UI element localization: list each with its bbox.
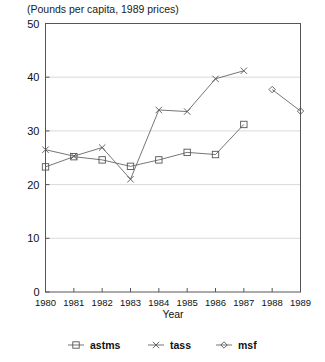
x-axis-ticks: 1980198119821983198419851986198719881989	[35, 288, 311, 308]
x-tick-label: 1982	[92, 297, 113, 308]
data-point-x	[127, 176, 133, 182]
x-axis-title: Year	[162, 308, 184, 320]
x-tick-label: 1988	[262, 297, 283, 308]
x-tick-label: 1984	[148, 297, 169, 308]
series-line-msf	[272, 90, 300, 111]
x-tick-label: 1989	[290, 297, 311, 308]
x-tick-label: 1981	[63, 297, 84, 308]
chart-legend: astmstassmsf	[68, 339, 257, 351]
y-tick-label: 40	[27, 71, 39, 83]
x-tick-label: 1983	[120, 297, 141, 308]
x-tick-label: 1985	[177, 297, 198, 308]
x-tick-label: 1986	[205, 297, 226, 308]
data-point-x	[212, 76, 218, 82]
legend-item-astms[interactable]: astms	[68, 339, 121, 351]
data-series-group	[42, 68, 303, 183]
legend-label: astms	[90, 339, 121, 351]
data-point-x	[241, 68, 247, 74]
series-msf	[269, 86, 304, 114]
legend-label: tass	[170, 339, 191, 351]
chart-figure: (Pounds per capita, 1989 prices) 0102030…	[0, 0, 325, 362]
y-tick-label: 10	[27, 232, 39, 244]
legend-item-tass[interactable]: tass	[148, 339, 191, 351]
y-tick-label: 30	[27, 125, 39, 137]
y-tick-label: 50	[27, 18, 39, 30]
y-axis-ticks: 01020304050	[27, 18, 49, 299]
legend-label: msf	[238, 339, 257, 351]
data-point-x	[99, 144, 105, 150]
legend-item-msf[interactable]: msf	[216, 339, 257, 351]
series-tass	[42, 68, 247, 183]
y-tick-label: 20	[27, 179, 39, 191]
x-tick-label: 1987	[233, 297, 254, 308]
line-chart-plot: 01020304050 1980198119821983198419851986…	[0, 0, 325, 362]
x-tick-label: 1980	[35, 297, 56, 308]
